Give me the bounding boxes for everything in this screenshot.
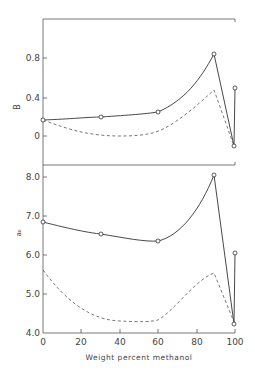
upper-dashed-series <box>43 90 234 146</box>
svg-text:6.0: 6.0 <box>26 250 41 260</box>
svg-text:100: 100 <box>226 337 243 347</box>
lower-markers <box>41 173 237 326</box>
upper-markers <box>41 52 237 148</box>
xticks: 0 20 40 60 80 100 <box>40 337 244 347</box>
svg-text:20: 20 <box>75 337 87 347</box>
svg-text:7.0: 7.0 <box>26 211 41 221</box>
svg-text:0: 0 <box>34 131 40 141</box>
svg-text:0: 0 <box>40 337 46 347</box>
upper-panel <box>43 19 235 165</box>
lower-dashed-series <box>43 270 234 322</box>
svg-text:60: 60 <box>152 337 164 347</box>
svg-text:5.0: 5.0 <box>26 289 41 299</box>
svg-text:4.0: 4.0 <box>26 328 41 338</box>
svg-text:80: 80 <box>191 337 203 347</box>
lower-ylabel: a₀ <box>15 229 23 236</box>
lower-solid-series <box>43 175 235 324</box>
lower-yticks: 8.0 7.0 6.0 5.0 4.0 <box>26 172 41 338</box>
chart-figure: 0.8 0.4 0 B 8.0 7.0 6.0 5.0 4.0 a₀ 0 <box>0 0 255 378</box>
upper-yticks: 0.8 0.4 0 <box>26 53 41 141</box>
svg-text:8.0: 8.0 <box>26 172 41 182</box>
svg-text:0.8: 0.8 <box>26 53 41 63</box>
lower-panel <box>43 165 235 333</box>
x-axis-label: Weight percent methanol <box>86 353 193 362</box>
upper-ylabel: B <box>13 104 22 110</box>
svg-text:40: 40 <box>114 337 126 347</box>
upper-solid-series <box>43 54 235 146</box>
svg-text:0.4: 0.4 <box>26 93 41 103</box>
